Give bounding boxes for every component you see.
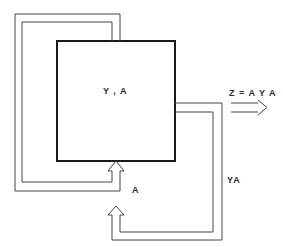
feedback-a-label: A bbox=[132, 185, 140, 195]
process-box bbox=[57, 41, 175, 161]
feedback-loop-ya bbox=[108, 103, 222, 240]
output-arrow bbox=[231, 100, 267, 115]
flow-diagram: Y , A Z = A Y A A YA bbox=[0, 0, 283, 247]
arrow-up-icon bbox=[108, 161, 124, 171]
output-label: Z = A Y A bbox=[229, 88, 276, 98]
feedback-ya-label: YA bbox=[227, 175, 241, 185]
arrow-right-icon bbox=[258, 100, 267, 115]
arrow-up-icon bbox=[108, 206, 124, 215]
box-label: Y , A bbox=[103, 86, 128, 96]
